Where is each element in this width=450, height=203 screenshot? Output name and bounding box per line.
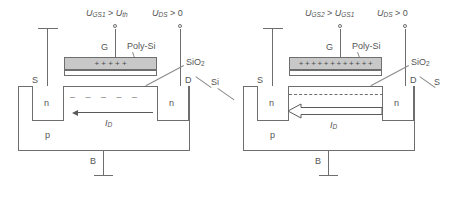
drain-nwell-label-right: n <box>394 99 399 108</box>
drain-terminal-node-right <box>403 24 407 28</box>
current-arrow-head-left <box>72 110 78 116</box>
gate-label-right: G <box>326 43 333 52</box>
gate-lead-right <box>340 29 341 57</box>
channel-charges-left: – – – – – <box>70 93 141 102</box>
bulk-ground-bar-right <box>319 175 338 176</box>
substrate-label-right: p <box>270 131 275 140</box>
sio2-label-right: SiO2 <box>411 58 430 68</box>
gate-lead-left <box>115 29 116 57</box>
mosfet-device-right: UGS2 > UGS1 UDS > 0 G D S Poly-Si + + + … <box>225 0 450 203</box>
source-label-right: S <box>257 76 263 85</box>
drain-lead-right <box>405 29 406 87</box>
gate-voltage-label-left: UGS1 > Uth <box>86 9 128 19</box>
substrate-label-left: p <box>45 131 50 140</box>
gate-terminal-node-right <box>338 24 342 28</box>
bulk-label-right: B <box>315 157 321 166</box>
source-label-left: S <box>32 76 38 85</box>
poly-gate-bar-left: + + + + + <box>64 57 157 70</box>
drain-terminal-node-left <box>178 24 182 28</box>
bulk-ground-bar-left <box>94 175 113 176</box>
gate-oxide-right <box>289 70 382 76</box>
gate-voltage-label-right: UGS2 > UGS1 <box>305 9 354 19</box>
poly-gate-bar-right: + + + + + + + + + + + + <box>289 57 382 70</box>
drain-label-left: D <box>185 76 192 85</box>
gate-label-left: G <box>101 43 108 52</box>
sio2-label-left: SiO2 <box>186 58 205 68</box>
drain-lead-left <box>180 29 181 87</box>
drain-nwell-label-left: n <box>169 99 174 108</box>
silicon-label-right: S <box>434 78 440 87</box>
source-nwell-label-right: n <box>269 99 274 108</box>
bulk-label-left: B <box>90 157 96 166</box>
source-electrode-bar-right <box>263 28 283 29</box>
bulk-lead-left <box>103 151 104 175</box>
gate-oxide-left <box>64 70 157 76</box>
source-lead-right <box>272 28 273 87</box>
current-label-left: ID <box>105 119 112 129</box>
silicon-label-center: Si <box>211 78 219 87</box>
source-electrode-bar-left <box>38 28 58 29</box>
current-arrow-shaft-left <box>78 112 153 113</box>
drain-voltage-label-left: UDS > 0 <box>152 9 183 19</box>
mosfet-device-left: UGS1 > Uth UDS > 0 G D S Poly-Si + + + +… <box>0 0 225 203</box>
drain-label-right: D <box>410 76 417 85</box>
drain-voltage-label-right: UDS > 0 <box>377 9 408 19</box>
mosfet-comparison-diagram: UGS1 > Uth UDS > 0 G D S Poly-Si + + + +… <box>0 0 450 203</box>
current-block-arrow-right <box>287 102 383 120</box>
inversion-channel-right <box>289 94 383 95</box>
poly-si-label-right: Poly-Si <box>352 42 381 51</box>
bulk-lead-right <box>328 151 329 175</box>
poly-si-label-left: Poly-Si <box>127 42 156 51</box>
current-label-right: ID <box>330 121 337 131</box>
gate-terminal-node-left <box>113 24 117 28</box>
source-nwell-label-left: n <box>44 99 49 108</box>
source-lead-left <box>47 28 48 87</box>
